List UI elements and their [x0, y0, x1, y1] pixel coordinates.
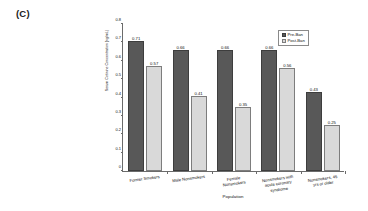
bar-post-ban[interactable]: 0.57	[146, 66, 162, 171]
bar-group: 0.710.57	[123, 24, 167, 171]
bar-value-label: 0.25	[328, 120, 336, 125]
y-axis-tick-label: 0.1	[115, 147, 121, 151]
y-axis-tick-label: 0.8	[115, 18, 121, 22]
y-axis-tick-label: 0.6	[115, 55, 121, 59]
bar-value-label: 0.66	[221, 45, 229, 50]
legend-swatch-icon	[282, 33, 286, 37]
bar-group: 0.660.35	[212, 24, 256, 171]
bar-value-label: 0.57	[150, 61, 158, 66]
legend-item[interactable]: Post-Ban	[282, 39, 305, 43]
bar-post-ban[interactable]: 0.35	[235, 107, 251, 171]
y-axis-tick-label: 0	[119, 165, 121, 169]
bar-pre-ban[interactable]: 0.43	[306, 92, 322, 171]
x-axis-title: Population	[122, 194, 344, 199]
legend-label: Pre-Ban	[288, 33, 303, 37]
bar-post-ban[interactable]: 0.41	[191, 96, 207, 171]
y-axis-title: Serum Cotinine Concentration (ng/mL)	[105, 0, 110, 124]
legend-swatch-icon	[282, 39, 286, 43]
bar-pre-ban[interactable]: 0.66	[261, 50, 277, 171]
bar-value-label: 0.56	[283, 63, 291, 68]
bar-value-label: 0.41	[195, 91, 203, 96]
bar-value-label: 0.35	[239, 102, 247, 107]
bar-value-label: 0.66	[265, 45, 273, 50]
bar-value-label: 0.43	[310, 87, 318, 92]
bar-group: 0.660.41	[167, 24, 211, 171]
y-axis-tick-label: 0.3	[115, 110, 121, 114]
y-axis-tick-label: 0.2	[115, 128, 121, 132]
panel-label: (C)	[16, 8, 30, 19]
chart-legend: Pre-BanPost-Ban	[278, 30, 309, 46]
bar-chart: Serum Cotinine Concentration (ng/mL) 00.…	[96, 18, 360, 211]
bar-post-ban[interactable]: 0.25	[324, 125, 340, 171]
legend-item[interactable]: Pre-Ban	[282, 33, 305, 37]
bar-pre-ban[interactable]: 0.66	[217, 50, 233, 171]
bar-value-label: 0.66	[177, 45, 185, 50]
bar-value-label: 0.71	[132, 36, 140, 41]
y-axis-tick-label: 0.5	[115, 73, 121, 77]
bar-post-ban[interactable]: 0.56	[279, 68, 295, 171]
bar-pre-ban[interactable]: 0.66	[173, 50, 189, 171]
bar-pre-ban[interactable]: 0.71	[128, 41, 144, 171]
y-axis-tick-label: 0.7	[115, 36, 121, 40]
legend-label: Post-Ban	[288, 39, 305, 43]
y-axis-tick-label: 0.4	[115, 92, 121, 96]
plot-area: 00.10.20.30.40.50.60.70.80.710.570.660.4…	[122, 24, 344, 172]
